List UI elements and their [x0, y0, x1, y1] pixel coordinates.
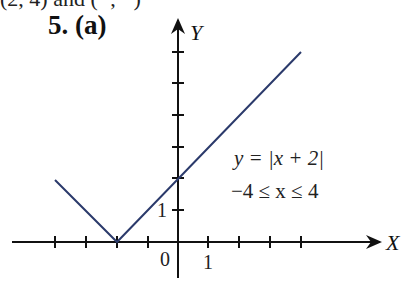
y-axis-label: Y [190, 20, 205, 45]
equation-line: y = |x + 2| [234, 146, 324, 171]
y-tick-label-1: 1 [157, 199, 167, 221]
x-axis-label: X [385, 230, 401, 255]
graph: Y X 1 0 1 [0, 0, 406, 290]
domain-line: −4 ≤ x ≤ 4 [231, 179, 318, 204]
x-tick-label-1: 1 [203, 251, 213, 273]
origin-label: 0 [160, 248, 170, 270]
